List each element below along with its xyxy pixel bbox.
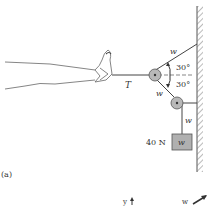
axis-label-w: w xyxy=(182,198,188,206)
label-weight-value: 40 N xyxy=(146,138,166,147)
label-angle-lower: 30° xyxy=(176,80,190,89)
label-tension: T xyxy=(125,80,132,90)
label-angle-upper: 30° xyxy=(176,63,190,72)
wall xyxy=(197,6,203,172)
pulley-2 xyxy=(171,97,183,109)
label-rope-vertical: w xyxy=(185,116,192,125)
axis-label-y: y xyxy=(122,198,127,206)
panel-label: (a) xyxy=(1,170,12,179)
leg-icon xyxy=(5,50,112,89)
pulley-1 xyxy=(149,69,161,81)
label-rope-lower-diagonal: w xyxy=(156,89,163,98)
arc-arrow-lower xyxy=(166,84,170,88)
label-rope-upper: w xyxy=(170,47,177,56)
traction-diagram: T w 30° 30° w w 40 N w (a) y w xyxy=(0,0,209,207)
label-weight-box: w xyxy=(178,138,185,147)
